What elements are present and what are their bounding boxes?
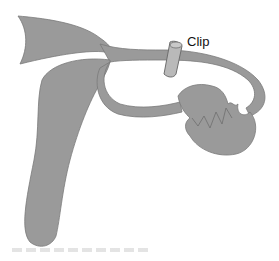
ovary: [178, 84, 256, 155]
clip-label: Clip: [187, 34, 209, 49]
fimbria-shape: [18, 16, 112, 64]
anatomy-illustration: [0, 0, 279, 261]
clip-icon: [164, 41, 182, 77]
faded-caption: [12, 248, 152, 252]
diagram-canvas: Clip: [0, 0, 279, 261]
